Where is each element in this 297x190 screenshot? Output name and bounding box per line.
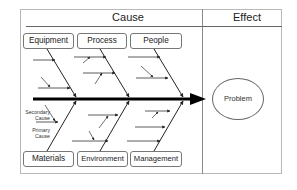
secondary-label-line2: Cause — [14, 115, 50, 121]
category-people: People — [130, 33, 182, 49]
fishbone-diagram: Cause Effect — [0, 0, 297, 190]
problem-ellipse: Problem — [212, 78, 264, 120]
primary-label-line2: Cause — [14, 133, 50, 139]
spine-arrow-icon — [190, 93, 206, 105]
category-management: Management — [130, 151, 182, 167]
primary-cause-label: Primary Cause — [14, 127, 50, 139]
category-environment: Environment — [77, 151, 128, 167]
category-materials: Materials — [23, 151, 74, 167]
category-equipment: Equipment — [23, 33, 74, 49]
category-process: Process — [77, 33, 127, 49]
secondary-cause-label: Secondary Cause — [14, 109, 50, 121]
